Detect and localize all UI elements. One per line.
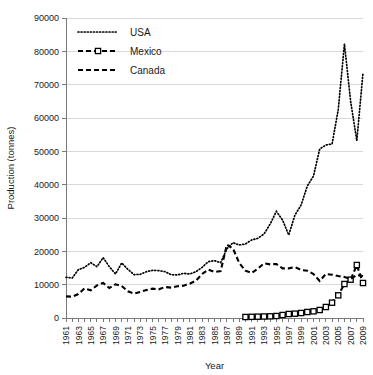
y-tick-label: 20000 [34, 247, 59, 257]
series-line-usa [66, 44, 363, 278]
y-tick-label: 60000 [34, 113, 59, 123]
legend-label-usa: USA [130, 27, 151, 38]
x-tick-label: 2009 [358, 326, 368, 345]
y-tick-label: 30000 [34, 213, 59, 223]
series-marker-mexico [336, 293, 341, 298]
y-tick-label: 80000 [34, 47, 59, 57]
y-tick-label: 70000 [34, 80, 59, 90]
x-tick-label: 1993 [259, 326, 269, 345]
x-tick-label: 1969 [111, 326, 121, 345]
x-tick-label: 1995 [272, 326, 282, 345]
y-tick-label: 90000 [34, 13, 59, 23]
legend-label-mexico: Mexico [130, 46, 162, 57]
series-marker-mexico [261, 314, 266, 319]
x-axis: 1961196319651967196919711973197519771979… [61, 318, 368, 345]
x-tick-label: 2001 [309, 326, 319, 345]
y-tick-label: 40000 [34, 180, 59, 190]
gridlines [66, 18, 363, 285]
x-tick-label: 1967 [98, 326, 108, 345]
series-marker-mexico [317, 307, 322, 312]
x-tick-label: 1983 [197, 326, 207, 345]
x-tick-label: 1975 [148, 326, 158, 345]
x-tick-label: 1979 [173, 326, 183, 345]
y-axis: 0100002000030000400005000060000700008000… [34, 13, 66, 323]
x-tick-label: 1963 [74, 326, 84, 345]
series-marker-mexico [360, 280, 365, 285]
series-marker-mexico [354, 262, 359, 267]
x-axis-title: Year [205, 360, 224, 371]
x-tick-label: 1973 [135, 326, 145, 345]
series-marker-mexico [329, 300, 334, 305]
series-marker-mexico [255, 314, 260, 319]
series-marker-mexico [323, 304, 328, 309]
y-tick-label: 0 [54, 313, 59, 323]
production-line-chart: 0100002000030000400005000060000700008000… [0, 0, 373, 375]
series-marker-mexico [305, 309, 310, 314]
y-tick-label: 10000 [34, 280, 59, 290]
series-line-canada [66, 245, 363, 297]
x-tick-label: 2003 [321, 326, 331, 345]
legend-label-canada: Canada [130, 65, 165, 76]
x-tick-label: 1965 [86, 326, 96, 345]
x-tick-label: 1977 [160, 326, 170, 345]
chart-svg: 0100002000030000400005000060000700008000… [0, 0, 373, 375]
series-marker-mexico [292, 311, 297, 316]
x-tick-label: 1971 [123, 326, 133, 345]
x-tick-label: 1981 [185, 326, 195, 345]
x-tick-label: 1989 [234, 326, 244, 345]
data-series [66, 44, 366, 320]
x-tick-label: 1997 [284, 326, 294, 345]
legend-marker-mexico [95, 48, 100, 53]
x-tick-label: 1987 [222, 326, 232, 345]
series-marker-mexico [286, 311, 291, 316]
series-marker-mexico [249, 314, 254, 319]
series-marker-mexico [268, 314, 273, 319]
x-tick-label: 1999 [296, 326, 306, 345]
series-marker-mexico [342, 281, 347, 286]
x-tick-label: 2007 [346, 326, 356, 345]
series-marker-mexico [280, 312, 285, 317]
x-tick-label: 1961 [61, 326, 71, 345]
series-marker-mexico [299, 310, 304, 315]
x-tick-label: 1985 [210, 326, 220, 345]
series-marker-mexico [311, 309, 316, 314]
series-marker-mexico [243, 314, 248, 319]
x-tick-label: 2005 [333, 326, 343, 345]
series-marker-mexico [274, 313, 279, 318]
x-tick-label: 1991 [247, 326, 257, 345]
y-tick-label: 50000 [34, 147, 59, 157]
y-axis-title: Production (tonnes) [5, 127, 16, 210]
